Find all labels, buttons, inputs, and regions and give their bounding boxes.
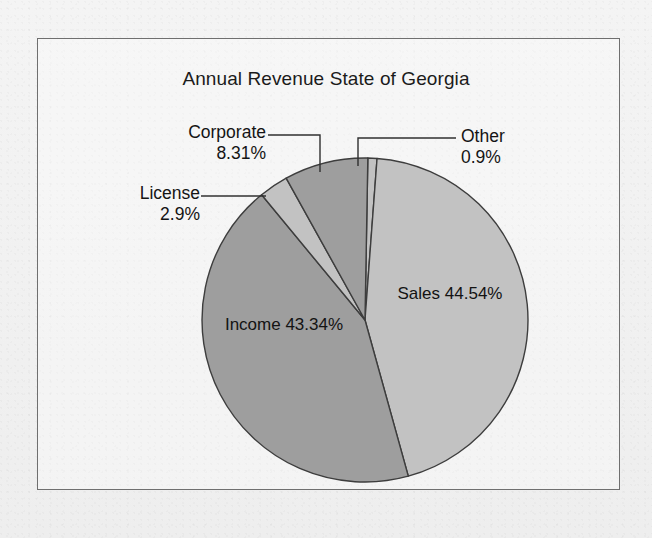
slice-callout-license: License 2.9% [116, 183, 200, 225]
slice-label-income: Income 43.34% [219, 314, 349, 335]
slice-callout-license-value: 2.9% [116, 204, 200, 225]
slice-callout-corporate-value: 8.31% [166, 143, 266, 164]
slice-callout-license-label: License [140, 183, 200, 203]
slice-label-sales-name: Sales [398, 284, 441, 303]
slice-callout-other-value: 0.9% [461, 147, 571, 168]
slice-callout-corporate-label: Corporate [188, 122, 266, 142]
pie-chart [0, 0, 652, 538]
chart-figure: Annual Revenue State of Georgia Corporat… [0, 0, 652, 538]
slice-callout-other: Other 0.9% [461, 126, 571, 168]
slice-label-sales-value: 44.54% [445, 284, 503, 303]
slice-label-sales: Sales 44.54% [390, 283, 510, 304]
slice-label-income-name: Income [225, 315, 281, 334]
slice-callout-other-label: Other [461, 126, 505, 146]
slice-label-income-value: 43.34% [285, 315, 343, 334]
slice-callout-corporate: Corporate 8.31% [166, 122, 266, 164]
